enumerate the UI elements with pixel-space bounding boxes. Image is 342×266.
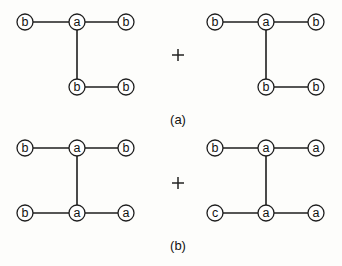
node-label: b: [123, 80, 130, 94]
graph-node-b: b: [258, 79, 274, 95]
node-label: a: [123, 206, 130, 220]
node-label: a: [263, 15, 270, 29]
node-label: a: [74, 141, 81, 155]
node-label: b: [313, 80, 320, 94]
graph-node-a: a: [258, 14, 274, 30]
node-label: a: [313, 141, 320, 155]
panel-caption: (a): [170, 112, 186, 127]
tree-graph: babbaa: [17, 140, 134, 221]
tree-graph: babbb: [207, 14, 324, 95]
plus-sign-icon: [172, 49, 184, 61]
graph-node-a: a: [118, 205, 134, 221]
node-label: a: [263, 206, 270, 220]
panel-b: babbaabaacaa(b): [17, 140, 324, 253]
graph-node-a: a: [308, 205, 324, 221]
node-label: b: [123, 15, 130, 29]
graph-node-b: b: [17, 205, 33, 221]
node-label: b: [313, 15, 320, 29]
tree-graph: babbb: [17, 14, 134, 95]
graph-node-b: b: [69, 79, 85, 95]
graph-node-b: b: [118, 79, 134, 95]
node-label: b: [22, 206, 29, 220]
graph-node-b: b: [308, 79, 324, 95]
node-label: a: [313, 206, 320, 220]
node-label: b: [263, 80, 270, 94]
graph-node-b: b: [207, 140, 223, 156]
node-label: c: [212, 206, 218, 220]
panel-a: babbbbabbb(a): [17, 14, 324, 127]
node-label: b: [212, 15, 219, 29]
graph-node-a: a: [69, 205, 85, 221]
node-label: a: [74, 206, 81, 220]
node-label: b: [123, 141, 130, 155]
graph-node-b: b: [118, 140, 134, 156]
node-label: b: [74, 80, 81, 94]
graph-node-b: b: [17, 140, 33, 156]
graph-node-b: b: [118, 14, 134, 30]
graph-node-a: a: [258, 140, 274, 156]
graph-node-a: a: [69, 140, 85, 156]
tree-graph: baacaa: [207, 140, 324, 221]
graph-node-c: c: [207, 205, 223, 221]
node-label: b: [22, 141, 29, 155]
tree-diagram-figure: babbbbabbb(a)babbaabaacaa(b): [0, 0, 342, 266]
graph-node-b: b: [207, 14, 223, 30]
node-label: b: [22, 15, 29, 29]
plus-sign-icon: [172, 177, 184, 189]
graph-node-a: a: [308, 140, 324, 156]
graph-node-b: b: [308, 14, 324, 30]
node-label: a: [74, 15, 81, 29]
panel-caption: (b): [170, 238, 186, 253]
graph-node-a: a: [258, 205, 274, 221]
graph-node-b: b: [17, 14, 33, 30]
node-label: b: [212, 141, 219, 155]
graph-node-a: a: [69, 14, 85, 30]
node-label: a: [263, 141, 270, 155]
